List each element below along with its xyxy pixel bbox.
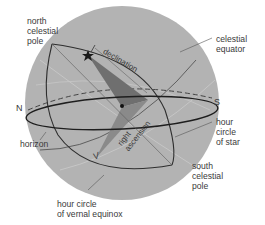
label-celestial-equator: celestial equator bbox=[216, 34, 247, 54]
label-north-celestial-pole: north celestial pole bbox=[27, 16, 58, 46]
label-hour-circle-vernal-equinox: hour circle of vernal equinox bbox=[57, 199, 122, 219]
center-dot bbox=[120, 104, 124, 108]
label-hour-circle-of-star: hour circle of star bbox=[216, 117, 240, 147]
label-south: S bbox=[214, 97, 220, 107]
label-horizon: horizon bbox=[20, 139, 48, 149]
label-south-celestial-pole: south celestial pole bbox=[192, 161, 223, 191]
label-north: N bbox=[16, 103, 23, 113]
